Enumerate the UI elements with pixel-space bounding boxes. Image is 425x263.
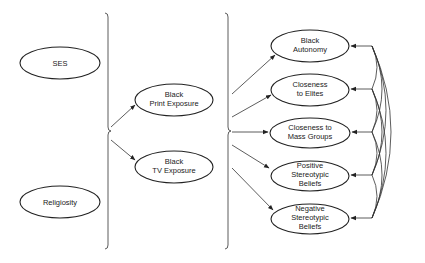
node-positive-beliefs: Positive Stereotypic Beliefs (271, 161, 349, 191)
arrow-to-negative (232, 168, 273, 210)
node-tv-line1: Black (165, 157, 184, 166)
node-negative-line3: Beliefs (299, 222, 322, 231)
correlation-arcs (351, 46, 391, 218)
node-closeness-mass: Closeness to Mass Groups (270, 118, 350, 148)
node-tv-exposure: Black TV Exposure (135, 151, 213, 183)
path-diagram: SES Religiosity Black Print Exposure Bla… (0, 0, 425, 263)
node-ses-label: SES (52, 59, 67, 68)
node-elites-line1: Closeness (292, 80, 327, 89)
node-print-line1: Black (165, 90, 184, 99)
node-elites-line2: to Elites (297, 89, 324, 98)
node-print-exposure: Black Print Exposure (135, 84, 213, 116)
node-negative-beliefs: Negative Stereotypic Beliefs (271, 204, 349, 234)
node-positive-line3: Beliefs (299, 179, 322, 188)
node-print-line2: Print Exposure (149, 99, 198, 108)
node-closeness-elites: Closeness to Elites (271, 74, 349, 106)
arrow-to-autonomy (232, 55, 275, 94)
left-brace (105, 13, 111, 249)
node-autonomy-line2: Autonomy (293, 45, 327, 54)
node-negative-line2: Stereotypic (291, 213, 329, 222)
node-tv-line2: TV Exposure (152, 166, 195, 175)
arrow-to-elites (232, 95, 271, 117)
node-religiosity: Religiosity (20, 186, 100, 218)
node-mass-line2: Mass Groups (288, 132, 333, 141)
node-negative-line1: Negative (295, 204, 325, 213)
node-mass-line1: Closeness to (288, 123, 331, 132)
node-religiosity-label: Religiosity (43, 198, 77, 207)
arrow-to-positive (232, 145, 269, 168)
node-autonomy-line1: Black (301, 36, 320, 45)
node-positive-line2: Stereotypic (291, 170, 329, 179)
arrow-to-print (111, 105, 135, 127)
node-black-autonomy: Black Autonomy (271, 30, 349, 62)
right-brace (225, 13, 231, 249)
node-positive-line1: Positive (297, 161, 323, 170)
node-ses: SES (20, 47, 100, 79)
arrow-to-tv (111, 140, 135, 160)
